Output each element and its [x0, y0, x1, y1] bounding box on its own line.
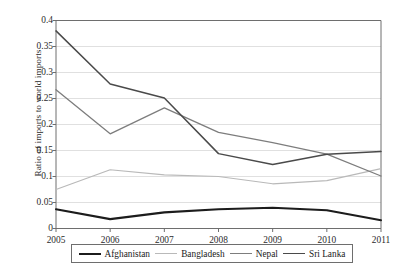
legend-item-sri-lanka[interactable]: Sri Lanka — [283, 249, 345, 259]
legend-label: Sri Lanka — [309, 249, 345, 259]
legend-item-nepal[interactable]: Nepal — [230, 249, 278, 259]
legend-label: Bangladesh — [181, 249, 224, 259]
legend-swatch-line — [230, 253, 252, 254]
series-line-nepal — [56, 90, 381, 176]
legend-label: Afghanistan — [105, 249, 150, 259]
legend-item-bangladesh[interactable]: Bangladesh — [155, 249, 224, 259]
line-chart-plot — [0, 0, 414, 271]
chart-figure: Ratio of imports to world imports 00.050… — [0, 0, 414, 271]
legend-item-afghanistan[interactable]: Afghanistan — [79, 249, 150, 259]
series-line-sri-lanka — [56, 31, 381, 165]
series-line-bangladesh — [56, 169, 381, 190]
legend-swatch-line — [283, 253, 305, 254]
series-line-afghanistan — [56, 208, 381, 220]
legend-swatch-line — [79, 253, 101, 255]
legend-swatch-line — [155, 253, 177, 254]
chart-legend: AfghanistanBangladeshNepalSri Lanka — [71, 244, 353, 263]
legend-label: Nepal — [256, 249, 278, 259]
